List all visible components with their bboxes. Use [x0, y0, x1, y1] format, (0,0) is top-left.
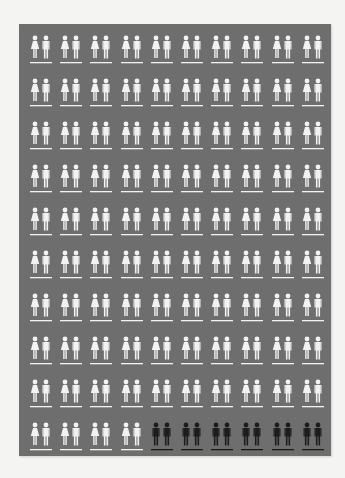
man-man-couple-icon	[268, 419, 298, 462]
woman-man-couple-icon	[268, 333, 298, 376]
woman-man-couple-icon	[268, 161, 298, 204]
woman-man-couple-icon	[237, 333, 267, 376]
woman-man-couple-icon	[177, 290, 207, 333]
woman-man-couple-icon	[26, 247, 56, 290]
woman-man-couple-icon	[117, 290, 147, 333]
woman-man-couple-icon	[26, 290, 56, 333]
woman-man-couple-icon	[237, 118, 267, 161]
woman-man-couple-icon	[86, 247, 116, 290]
woman-man-couple-icon	[86, 118, 116, 161]
woman-man-couple-icon	[177, 161, 207, 204]
man-man-couple-icon	[207, 419, 237, 462]
woman-man-couple-icon	[26, 118, 56, 161]
woman-man-couple-icon	[86, 333, 116, 376]
woman-man-couple-icon	[237, 376, 267, 419]
woman-man-couple-icon	[56, 32, 86, 75]
woman-man-couple-icon	[298, 333, 328, 376]
woman-man-couple-icon	[26, 75, 56, 118]
woman-man-couple-icon	[268, 376, 298, 419]
woman-man-couple-icon	[147, 290, 177, 333]
woman-man-couple-icon	[26, 32, 56, 75]
woman-man-couple-icon	[298, 32, 328, 75]
woman-man-couple-icon	[207, 333, 237, 376]
woman-man-couple-icon	[268, 118, 298, 161]
woman-man-couple-icon	[117, 204, 147, 247]
woman-man-couple-icon	[298, 290, 328, 333]
woman-man-couple-icon	[147, 333, 177, 376]
woman-man-couple-icon	[117, 75, 147, 118]
woman-man-couple-icon	[237, 32, 267, 75]
woman-man-couple-icon	[147, 75, 177, 118]
woman-man-couple-icon	[237, 290, 267, 333]
woman-man-couple-icon	[147, 32, 177, 75]
man-man-couple-icon	[237, 419, 267, 462]
woman-man-couple-icon	[268, 32, 298, 75]
woman-man-couple-icon	[177, 118, 207, 161]
woman-man-couple-icon	[117, 333, 147, 376]
woman-man-couple-icon	[117, 419, 147, 462]
woman-man-couple-icon	[117, 376, 147, 419]
woman-man-couple-icon	[86, 290, 116, 333]
woman-man-couple-icon	[26, 419, 56, 462]
woman-man-couple-icon	[56, 118, 86, 161]
woman-man-couple-icon	[117, 247, 147, 290]
woman-man-couple-icon	[207, 204, 237, 247]
woman-man-couple-icon	[177, 204, 207, 247]
woman-man-couple-icon	[268, 75, 298, 118]
woman-man-couple-icon	[298, 75, 328, 118]
woman-man-couple-icon	[207, 290, 237, 333]
woman-man-couple-icon	[56, 376, 86, 419]
woman-man-couple-icon	[207, 75, 237, 118]
woman-man-couple-icon	[237, 247, 267, 290]
woman-man-couple-icon	[147, 376, 177, 419]
woman-man-couple-icon	[268, 247, 298, 290]
woman-man-couple-icon	[298, 247, 328, 290]
woman-man-couple-icon	[86, 376, 116, 419]
woman-man-couple-icon	[207, 161, 237, 204]
woman-man-couple-icon	[26, 376, 56, 419]
woman-man-couple-icon	[117, 118, 147, 161]
woman-man-couple-icon	[86, 161, 116, 204]
woman-man-couple-icon	[207, 118, 237, 161]
woman-man-couple-icon	[207, 32, 237, 75]
woman-man-couple-icon	[237, 161, 267, 204]
woman-man-couple-icon	[147, 204, 177, 247]
woman-man-couple-icon	[56, 161, 86, 204]
woman-man-couple-icon	[56, 247, 86, 290]
woman-man-couple-icon	[268, 290, 298, 333]
woman-man-couple-icon	[237, 75, 267, 118]
couple-icon-grid	[26, 32, 328, 462]
man-man-couple-icon	[298, 419, 328, 462]
woman-man-couple-icon	[86, 204, 116, 247]
woman-man-couple-icon	[86, 75, 116, 118]
woman-man-couple-icon	[56, 75, 86, 118]
woman-man-couple-icon	[26, 333, 56, 376]
woman-man-couple-icon	[177, 32, 207, 75]
woman-man-couple-icon	[298, 118, 328, 161]
man-man-couple-icon	[177, 419, 207, 462]
woman-man-couple-icon	[177, 75, 207, 118]
woman-man-couple-icon	[26, 161, 56, 204]
woman-man-couple-icon	[207, 376, 237, 419]
woman-man-couple-icon	[26, 204, 56, 247]
woman-man-couple-icon	[147, 118, 177, 161]
woman-man-couple-icon	[207, 247, 237, 290]
woman-man-couple-icon	[56, 419, 86, 462]
woman-man-couple-icon	[86, 419, 116, 462]
woman-man-couple-icon	[86, 32, 116, 75]
woman-man-couple-icon	[147, 247, 177, 290]
woman-man-couple-icon	[177, 376, 207, 419]
woman-man-couple-icon	[56, 290, 86, 333]
woman-man-couple-icon	[298, 376, 328, 419]
woman-man-couple-icon	[237, 204, 267, 247]
infographic-panel	[19, 24, 331, 456]
woman-man-couple-icon	[298, 204, 328, 247]
man-man-couple-icon	[147, 419, 177, 462]
woman-man-couple-icon	[268, 204, 298, 247]
woman-man-couple-icon	[177, 247, 207, 290]
woman-man-couple-icon	[56, 204, 86, 247]
woman-man-couple-icon	[177, 333, 207, 376]
woman-man-couple-icon	[147, 161, 177, 204]
woman-man-couple-icon	[298, 161, 328, 204]
woman-man-couple-icon	[56, 333, 86, 376]
